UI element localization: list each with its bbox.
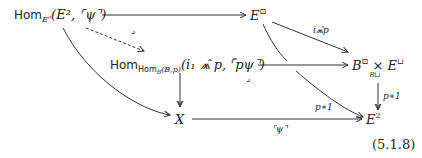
pullback-under: B⊔ (369, 72, 380, 79)
e2-sup: 2 (376, 111, 381, 120)
equation-number: (5.1.8) (372, 138, 415, 151)
e-box-base: E (250, 8, 260, 23)
pullback-b-sup: ⊡ (362, 57, 369, 66)
e2-base: E (366, 112, 376, 127)
e-box-sup: ⊡ (260, 7, 267, 16)
pullback-times: ×B⊔ (372, 59, 383, 72)
node-pullback: B⊡ ×B⊔ E⊔ (352, 58, 404, 72)
node-e2: E2 (366, 112, 381, 126)
pullback-e: E (387, 58, 397, 73)
hom-prefix: Hom (14, 8, 42, 22)
hom-subscript: E⁰ (42, 15, 51, 24)
arrow-e-box-curve-upper (263, 24, 287, 61)
hom-mid-prefix: Hom (110, 58, 138, 72)
label-bottom-psi: ⌜ψ⌝ (272, 125, 287, 134)
hom-args: (E², ⌜ψ⌝) (51, 7, 106, 22)
node-hom-top: HomE⁰(E², ⌜ψ⌝) (14, 8, 106, 24)
x-label: X (175, 112, 184, 127)
pullback-corner-mid: ⌟ (246, 74, 250, 83)
node-x: X (175, 113, 184, 126)
label-i-hat-p: i⩕̂p (313, 26, 329, 35)
pullback-corner-top: ⌟ (131, 26, 135, 35)
arrow-i-hat-p (272, 22, 348, 52)
hom-mid-subargs: (B,p) (161, 65, 181, 74)
pullback-b: B (352, 58, 362, 73)
pullback-e-sup: ⊔ (397, 57, 404, 66)
node-e-box: E⊡ (250, 8, 266, 22)
hom-mid-args: (i₁ ⩕̂ p, ⌜pψ⌝) (181, 57, 265, 72)
label-p-star-1-curve: p∗1 (315, 103, 333, 112)
commutative-diagram: HomE⁰(E², ⌜ψ⌝) E⊡ HomHomB(B,p)(i₁ ⩕̂ p, … (0, 0, 422, 158)
node-hom-mid: HomHomB(B,p)(i₁ ⩕̂ p, ⌜pψ⌝) (110, 58, 265, 75)
hom-mid-sub: Hom (138, 65, 157, 74)
label-p-star-1-right: p∗1 (383, 92, 401, 101)
arrow-dashed (86, 28, 144, 51)
